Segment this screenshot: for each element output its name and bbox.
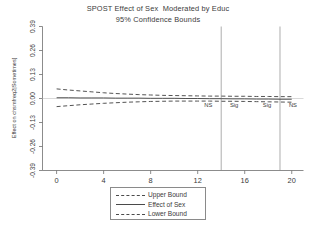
region-label-sig-left: Sig [224,102,244,108]
x-tick-label: 0 [45,176,69,185]
x-tick-label: 16 [233,176,257,185]
legend-label: Lower Bound [147,210,187,217]
y-tick-label: 0.13 [28,61,35,87]
legend-label: Effect of Sex [147,201,185,208]
chart-legend: Upper BoundEffect of SexLower Bound [110,187,206,220]
y-axis-title: Effect on chsmfreq2|Sometimes] [11,38,17,158]
region-label-ns-right: NS [283,102,303,108]
y-tick-marks [39,27,43,171]
region-label-sig-right: Sig [257,102,277,108]
x-tick-label: 20 [280,176,304,185]
legend-item: Upper Bound [114,190,202,200]
x-tick-label: 8 [139,176,163,185]
legend-label: Upper Bound [147,191,187,198]
x-tick-label: 12 [186,176,210,185]
x-tick-marks [57,171,292,175]
y-tick-label: 0.39 [28,13,35,39]
legend-item: Lower Bound [114,209,202,219]
legend-swatch-dashed-icon [114,191,147,199]
legend-swatch-solid-icon [114,200,147,208]
y-tick-label: 0.26 [28,37,35,63]
y-tick-label: -0.26 [28,133,35,159]
legend-swatch-dashed-icon [114,210,147,218]
x-tick-label: 4 [92,176,116,185]
chart-figure: SPOST Effect of Sex Moderated by Educ 95… [0,0,316,229]
legend-item: Effect of Sex [114,200,202,210]
region-label-ns-left: NS [198,102,218,108]
y-tick-label: -0.13 [28,109,35,135]
y-tick-label: 0.00 [28,85,35,111]
y-tick-label: -0.39 [28,157,35,183]
